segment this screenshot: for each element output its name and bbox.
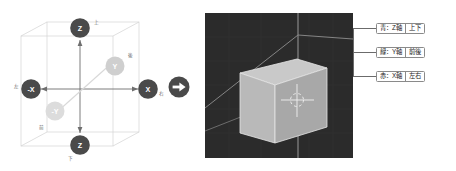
- node-x-right: X: [138, 79, 158, 99]
- arrowhead-z-up: [78, 40, 83, 46]
- callout-y-direction-text: 前後: [405, 48, 424, 57]
- node-x-left: -X: [21, 79, 41, 99]
- dir-label-left: 左: [14, 83, 19, 89]
- callout-y-axis: 緑：Y軸 前後: [376, 47, 425, 58]
- callout-z-direction-text: 上下: [405, 24, 424, 33]
- node-y-front: -Y: [46, 102, 65, 121]
- leader-line-z: [353, 28, 376, 29]
- arrowhead-x-left: [41, 87, 47, 92]
- node-z-down: Z: [70, 135, 90, 155]
- node-y-front-label: -Y: [51, 107, 58, 116]
- node-x-right-label: X: [146, 85, 151, 94]
- node-y-back-label: Y: [113, 62, 118, 71]
- leader-line-y: [353, 52, 376, 53]
- callout-x-direction-text: 左右: [405, 72, 424, 81]
- leader-line-x: [353, 76, 376, 77]
- dir-label-back: 後: [128, 52, 133, 58]
- cube: [240, 59, 327, 143]
- leader-spine: [353, 28, 354, 76]
- callout-x-axis: 赤：X軸 左右: [376, 71, 425, 82]
- flow-arrow: [168, 76, 190, 98]
- node-z-up-label: Z: [78, 24, 83, 33]
- dir-label-right: 右: [159, 90, 164, 97]
- cube-front-face: [240, 73, 275, 143]
- dir-label-front: 前: [39, 124, 44, 131]
- node-z-down-label: Z: [78, 141, 83, 150]
- arrowhead-x-right: [132, 87, 138, 92]
- dir-label-down: 下: [68, 156, 73, 162]
- callout-z-axis-text: 青：Z軸: [377, 24, 405, 33]
- screenshot-root: -Y 前 Y 後 Z 上 Z 下 X: [0, 0, 456, 171]
- axis-diagram: -Y 前 Y 後 Z 上 Z 下 X: [0, 0, 165, 171]
- node-y-back: Y: [106, 57, 125, 76]
- callout-x-axis-text: 赤：X軸: [377, 72, 405, 81]
- dir-label-up: 上: [94, 19, 99, 25]
- callout-z-axis: 青：Z軸 上下: [376, 23, 425, 34]
- node-x-left-label: -X: [27, 85, 34, 94]
- viewport-3d[interactable]: [205, 13, 353, 158]
- callout-y-axis-text: 緑：Y軸: [377, 48, 405, 57]
- node-z-up: Z: [70, 18, 90, 38]
